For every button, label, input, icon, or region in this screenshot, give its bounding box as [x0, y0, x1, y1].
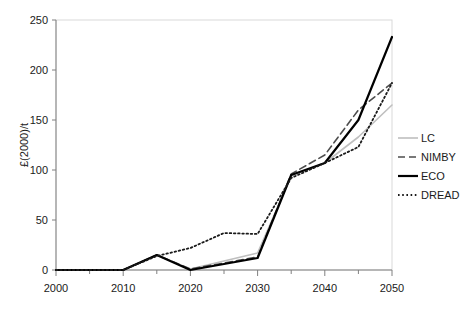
x-axis-tick-label: 2010	[111, 282, 135, 294]
legend-label-eco: ECO	[421, 170, 445, 182]
y-axis-tick-label: 0	[42, 264, 48, 276]
legend-label-dread: DREAD	[421, 189, 460, 201]
y-axis-tick-label: 200	[30, 64, 48, 76]
series-line-eco	[56, 37, 392, 270]
y-axis-tick-label: 150	[30, 114, 48, 126]
line-chart: 050100150200250200020102020203020402050£…	[0, 0, 473, 315]
x-axis-tick-label: 2030	[245, 282, 269, 294]
x-axis-tick-label: 2050	[380, 282, 404, 294]
series-line-dread	[56, 83, 392, 270]
x-axis-tick-label: 2040	[313, 282, 337, 294]
chart-container: 050100150200250200020102020203020402050£…	[0, 0, 473, 315]
series-line-lc	[56, 105, 392, 270]
legend-label-lc: LC	[421, 132, 435, 144]
legend-label-nimby: NIMBY	[421, 151, 457, 163]
x-axis-tick-label: 2020	[178, 282, 202, 294]
y-axis-tick-label: 50	[36, 214, 48, 226]
plot-area-border	[56, 20, 392, 270]
series-line-nimby	[56, 83, 392, 270]
y-axis-tick-label: 250	[30, 14, 48, 26]
x-axis-tick-label: 2000	[44, 282, 68, 294]
y-axis-title: £(2000)/t	[18, 123, 30, 167]
y-axis-tick-label: 100	[30, 164, 48, 176]
